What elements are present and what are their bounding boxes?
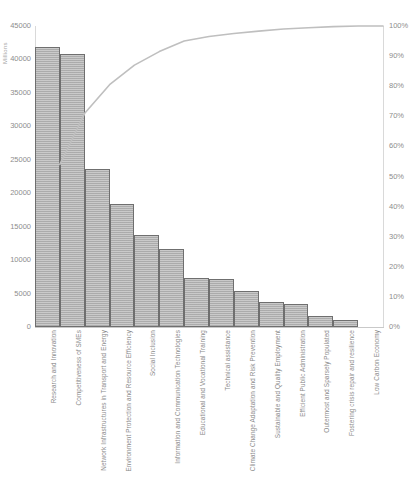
x-category-label: Outermost and Sparsely Populated [323, 330, 330, 433]
x-category-label: Educational and Vocational Training [199, 330, 206, 435]
y-tick-label: 0 [27, 323, 31, 331]
x-category-label: Low Carbon Economy [373, 330, 380, 395]
y2-tick-label: 30% [389, 233, 404, 241]
y-tick-label: 20000 [10, 189, 31, 197]
y-tick-label: 10000 [10, 256, 31, 264]
cumulative-line-path [60, 26, 383, 164]
y-tick-label: 40000 [10, 55, 31, 63]
x-category-label: Network Infrastructures in Transport and… [100, 330, 107, 471]
x-category-label: Efficient Public Administration [299, 330, 306, 417]
y2-tick-label: 20% [389, 263, 404, 271]
y2-tick-label: 90% [389, 52, 404, 60]
y2-tick-label: 50% [389, 173, 404, 181]
y-tick-label: 35000 [10, 89, 31, 97]
cumulative-line-series [35, 26, 383, 327]
y-axis-right-ticks: 0%10%20%30%40%50%60%70%80%90%100% [386, 0, 420, 502]
y-tick-label: 30000 [10, 122, 31, 130]
axis-line-bottom [35, 327, 384, 328]
y2-tick-label: 100% [389, 22, 408, 30]
y-tick-label: 15000 [10, 223, 31, 231]
y2-tick-label: 10% [389, 293, 404, 301]
x-category-label: Fostering crisis repair and resilience [348, 330, 355, 436]
x-category-label: Climate Change Adaptation and Risk Preve… [249, 330, 256, 471]
y2-tick-label: 40% [389, 203, 404, 211]
y-tick-label: 5000 [14, 290, 31, 298]
x-axis-category-labels: Research and InnovationCompetitiveness o… [35, 330, 383, 500]
y2-tick-label: 60% [389, 142, 404, 150]
x-category-label: Research and Innovation [50, 330, 57, 403]
y-tick-label: 25000 [10, 156, 31, 164]
x-category-label: Social Inclusion [149, 330, 156, 376]
x-category-label: Information and Communication Technologi… [174, 330, 181, 464]
x-category-label: Sustainable and Quality Employment [274, 330, 281, 438]
y-tick-label: 45000 [10, 22, 31, 30]
plot-area [35, 26, 383, 327]
axis-line-right [383, 26, 384, 328]
x-category-label: Technical assistance [224, 330, 231, 391]
y2-tick-label: 70% [389, 112, 404, 120]
pareto-chart: Millions 0500010000150002000025000300003… [0, 0, 420, 502]
y-axis-left-ticks: 0500010000150002000025000300003500040000… [0, 0, 34, 502]
y2-tick-label: 80% [389, 82, 404, 90]
y2-tick-label: 0% [389, 323, 400, 331]
x-category-label: Competitiveness of SMEs [75, 330, 82, 405]
x-category-label: Environment Protection and Resource Effi… [125, 330, 132, 472]
